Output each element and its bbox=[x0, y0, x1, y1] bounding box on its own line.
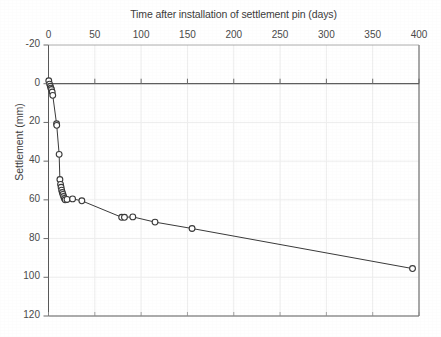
settlement-data-line bbox=[49, 81, 413, 269]
gridlines bbox=[49, 45, 420, 316]
plot-canvas bbox=[0, 0, 441, 337]
settlement-data-markers bbox=[46, 78, 416, 272]
settlement-chart-figure: Time after installation of settlement pi… bbox=[0, 0, 441, 337]
